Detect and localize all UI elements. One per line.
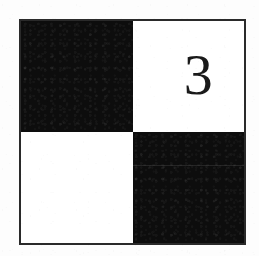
tile-cell-bottom-right (133, 132, 245, 243)
scanned-page: 3 (0, 0, 259, 256)
scan-seam-line (133, 165, 245, 166)
checkerboard-tile: 3 (19, 19, 246, 245)
tile-cell-bottom-left (21, 132, 133, 243)
tile-cell-top-left (21, 21, 133, 132)
tile-cell-top-right: 3 (133, 21, 245, 132)
tile-numeral-3: 3 (184, 46, 213, 104)
